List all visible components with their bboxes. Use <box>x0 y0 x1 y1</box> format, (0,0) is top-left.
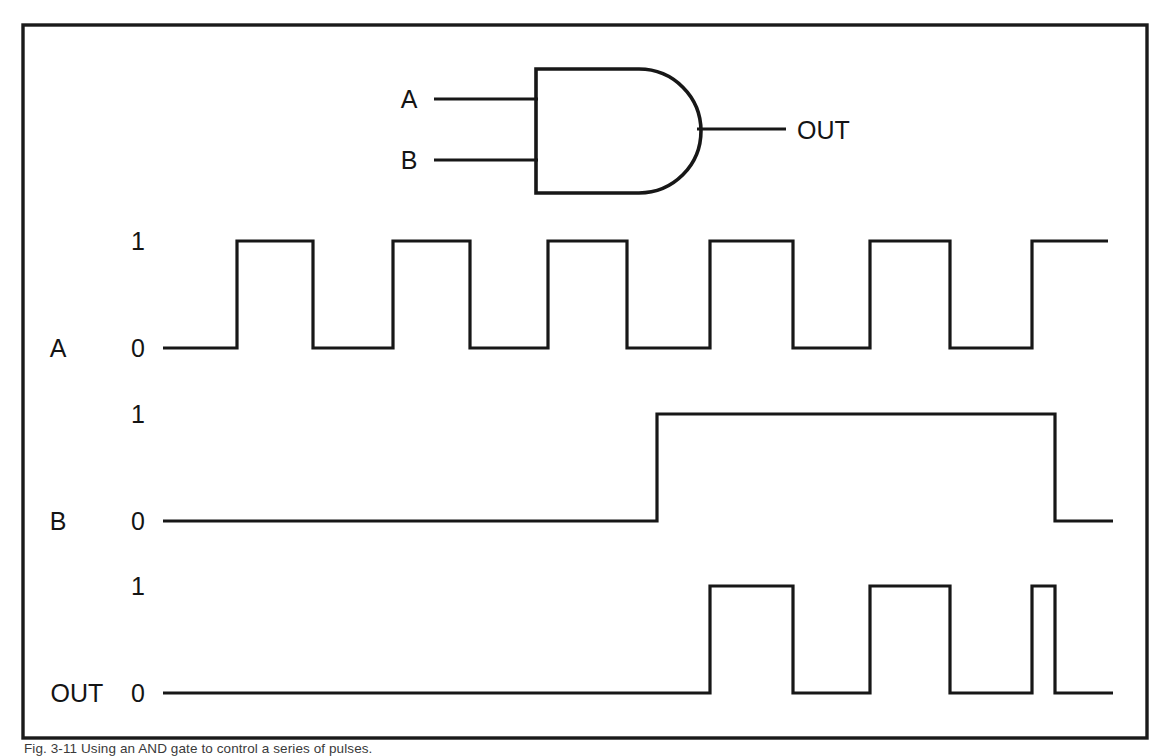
signal-label-out: OUT <box>51 679 104 707</box>
gate-input-b-label: B <box>401 146 418 174</box>
waveform-path-a <box>163 241 1108 348</box>
signal-label-a: A <box>50 334 67 362</box>
signal-label-b: B <box>50 507 67 535</box>
and-gate-symbol: A B OUT <box>401 69 850 193</box>
gate-input-a-label: A <box>401 85 418 113</box>
and-gate-body <box>536 69 701 193</box>
figure-border <box>23 25 1147 738</box>
figure-container: A B OUT A 1 0 B 1 0 OUT 1 0 Fig. 3-11 Us… <box>0 0 1170 756</box>
level-label-out-high: 1 <box>131 572 145 600</box>
gate-output-label: OUT <box>797 116 850 144</box>
waveform-path-b <box>163 414 1113 521</box>
waveform-path-out <box>163 586 1113 693</box>
timing-diagram-svg: A B OUT A 1 0 B 1 0 OUT 1 0 <box>0 0 1170 756</box>
waveform-row-b: B 1 0 <box>50 400 1113 535</box>
level-label-out-low: 0 <box>131 679 145 707</box>
waveform-row-a: A 1 0 <box>50 227 1108 362</box>
level-label-b-high: 1 <box>131 400 145 428</box>
level-label-a-low: 0 <box>131 334 145 362</box>
waveform-row-out: OUT 1 0 <box>51 572 1113 707</box>
level-label-a-high: 1 <box>131 227 145 255</box>
figure-caption: Fig. 3-11 Using an AND gate to control a… <box>24 741 372 756</box>
level-label-b-low: 0 <box>131 507 145 535</box>
